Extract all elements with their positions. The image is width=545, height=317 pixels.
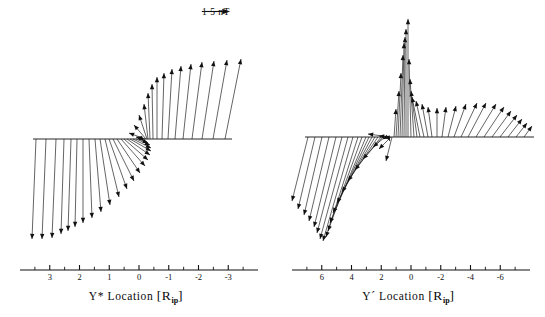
x-axis-tick-label: 0 <box>409 272 413 282</box>
field-vector <box>61 139 64 234</box>
x-axis: 6420-2-4-6 <box>292 265 530 282</box>
field-vector <box>144 104 148 139</box>
field-vector <box>225 59 241 139</box>
x-axis-caption-right: Y´ Location [Rip] <box>272 288 545 305</box>
field-vector <box>42 139 46 239</box>
axis-label-main-right: Location <box>376 290 429 302</box>
axis-unit-close-left: ] <box>178 288 183 303</box>
field-vector <box>175 66 181 139</box>
x-axis: 3210-1-2-3 <box>20 265 258 282</box>
field-vector <box>68 139 71 231</box>
field-vector <box>109 139 127 189</box>
field-vector <box>152 84 153 139</box>
field-vector <box>404 37 405 137</box>
field-vector <box>314 137 336 227</box>
field-vector <box>192 62 202 139</box>
field-vector <box>32 139 36 239</box>
x-axis-tick-label: 2 <box>379 272 383 282</box>
field-vector <box>292 137 308 201</box>
field-vector <box>89 139 92 218</box>
field-vector <box>342 137 375 192</box>
field-vector <box>95 139 101 212</box>
vector-plot-right: 6420-2-4-6 <box>272 0 545 317</box>
field-vector <box>409 59 411 137</box>
field-vector <box>328 137 362 231</box>
x-axis-tick-label: 0 <box>137 272 141 282</box>
axis-label-main-left: Location <box>104 290 157 302</box>
axis-unit-open-right: [R <box>428 288 443 303</box>
field-vector <box>298 137 315 209</box>
field-vector <box>202 61 214 139</box>
scale-arrow-icon-left <box>176 6 256 17</box>
field-vector <box>117 139 140 173</box>
field-vector <box>484 107 504 137</box>
scale-bar-left: 1 5 nT <box>176 6 256 17</box>
axis-unit-close-right: ] <box>450 288 455 303</box>
x-axis-tick-label: -2 <box>437 272 444 282</box>
x-axis-caption-left: Y* Location [Rip] <box>0 288 272 305</box>
x-axis-tick-label: 2 <box>77 272 81 282</box>
field-vector <box>183 64 191 139</box>
x-axis-tick-label: 1 <box>107 272 111 282</box>
x-axis-tick-label: -4 <box>467 272 475 282</box>
panel-right: 6420-2-4-6 Y´ Location [Rip] 1 5 nT <box>272 0 545 317</box>
axis-unit-sub-right: ip <box>443 296 450 305</box>
x-axis-tick-label: -6 <box>497 272 504 282</box>
panel-left: 3210-1-2-3 Y* Location [Rip] 1 5 nT <box>0 0 272 317</box>
field-vector <box>162 73 164 139</box>
field-vector <box>100 139 110 205</box>
field-vector <box>468 103 486 137</box>
field-vector <box>476 104 496 137</box>
x-axis-tick-label: -1 <box>165 272 172 282</box>
x-axis-tick-label: -2 <box>195 272 202 282</box>
axis-label-prefix-left: Y* <box>89 290 104 302</box>
field-vector <box>52 139 56 238</box>
field-vector <box>168 69 172 139</box>
field-vector <box>75 139 77 227</box>
x-axis-tick-label: 4 <box>349 272 354 282</box>
axis-label-prefix-right: Y´ <box>362 290 375 302</box>
vector-group <box>30 59 242 239</box>
vector-group <box>291 19 534 241</box>
x-axis-tick-label: -3 <box>225 272 232 282</box>
vector-field-figure: 3210-1-2-3 Y* Location [Rip] 1 5 nT 6420… <box>0 0 545 317</box>
field-vector <box>148 93 150 139</box>
x-axis-tick-label: 6 <box>320 272 324 282</box>
field-vector <box>213 60 227 139</box>
vector-plot-left: 3210-1-2-3 <box>0 0 272 317</box>
axis-unit-open-left: [R <box>157 288 172 303</box>
x-axis-tick-label: 3 <box>48 272 52 282</box>
